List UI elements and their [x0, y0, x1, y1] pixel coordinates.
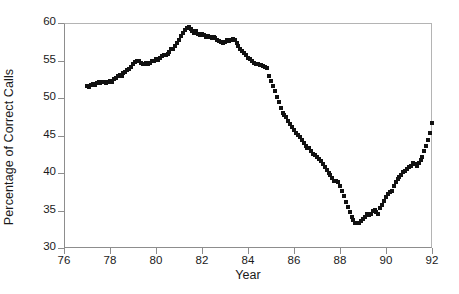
- data-point: [382, 199, 386, 203]
- chart-root: 30354045505560 767880828486889092 Percen…: [0, 0, 459, 294]
- data-point: [378, 206, 382, 210]
- data-point: [390, 189, 394, 193]
- y-axis-tick-label: 50: [30, 90, 56, 102]
- data-point: [392, 184, 396, 188]
- x-axis-tick-label: 86: [288, 254, 301, 266]
- data-point: [376, 212, 380, 216]
- data-point: [428, 131, 432, 135]
- x-axis-tick-label: 82: [196, 254, 209, 266]
- data-point: [277, 100, 281, 104]
- y-axis-tick-label: 40: [30, 165, 56, 177]
- y-axis-tick: [58, 173, 64, 174]
- x-axis-title: Year: [64, 268, 432, 282]
- x-axis-tick-label: 78: [104, 254, 117, 266]
- data-point: [338, 184, 342, 188]
- data-point: [177, 38, 181, 42]
- y-axis-tick: [58, 98, 64, 99]
- x-axis-tick-label: 92: [426, 254, 439, 266]
- y-axis-tick: [58, 211, 64, 212]
- y-axis-tick: [58, 136, 64, 137]
- data-point: [273, 89, 277, 93]
- x-axis-tick-label: 76: [58, 254, 71, 266]
- data-point: [269, 79, 273, 83]
- x-axis-tick-label: 90: [380, 254, 393, 266]
- data-point: [267, 74, 271, 78]
- x-axis-tick-label: 80: [150, 254, 163, 266]
- data-point: [344, 200, 348, 204]
- data-point: [420, 155, 424, 159]
- data-point: [426, 138, 430, 142]
- data-point: [424, 144, 428, 148]
- data-point: [380, 203, 384, 207]
- data-point: [342, 194, 346, 198]
- x-axis-tick-label: 84: [242, 254, 255, 266]
- data-point: [348, 210, 352, 214]
- data-point: [271, 84, 275, 88]
- y-axis-tick-label: 45: [30, 128, 56, 140]
- y-axis-title: Percentage of Correct Calls: [0, 0, 18, 294]
- x-axis-tick-label: 88: [334, 254, 347, 266]
- data-point: [340, 189, 344, 193]
- y-axis-tick-label: 30: [30, 240, 56, 252]
- y-axis-tick-label: 55: [30, 53, 56, 65]
- y-axis-tick-label: 60: [30, 15, 56, 27]
- data-point: [275, 95, 279, 99]
- data-point: [265, 66, 269, 70]
- data-point: [279, 106, 283, 110]
- data-point: [175, 41, 179, 45]
- plot-area: [64, 23, 432, 248]
- y-axis-tick: [58, 23, 64, 24]
- data-point: [346, 205, 350, 209]
- data-point: [422, 149, 426, 153]
- y-axis-tick-label: 35: [30, 203, 56, 215]
- data-point: [430, 121, 434, 125]
- data-point: [419, 158, 423, 162]
- y-axis-tick: [58, 61, 64, 62]
